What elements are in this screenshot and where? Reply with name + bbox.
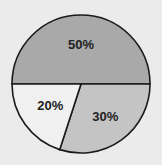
pie-chart: 50%30%20% xyxy=(0,0,162,165)
slice-label: 30% xyxy=(92,109,118,124)
slice-label: 20% xyxy=(37,98,63,113)
slice-label: 50% xyxy=(68,37,94,52)
